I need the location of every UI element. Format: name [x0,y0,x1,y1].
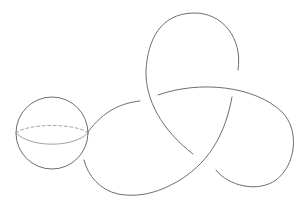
knot-strand-3-loop [146,13,239,154]
diagram-canvas [0,0,308,208]
knot-strand-1 [88,101,140,132]
sphere-equator-back-dashed [16,126,88,134]
knot-strand-4 [84,97,232,195]
sphere-outline [16,97,88,169]
sphere [16,97,88,169]
knot [84,13,293,195]
sphere-equator-front [16,133,88,144]
knot-strand-2 [158,87,293,187]
knotted-arc-sphere-diagram [0,0,308,208]
